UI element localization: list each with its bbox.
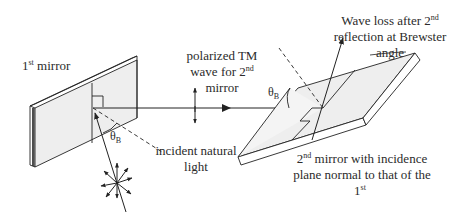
svg-text:reflection at Brewster: reflection at Brewster bbox=[334, 29, 447, 44]
svg-text:polarized TM: polarized TM bbox=[187, 48, 258, 63]
svg-text:wave for 2nd: wave for 2nd bbox=[190, 64, 254, 79]
svg-text:1st: 1st bbox=[354, 183, 367, 198]
brewster-angle-label-2: θB bbox=[268, 85, 279, 101]
svg-text:Wave loss after 2nd: Wave loss after 2nd bbox=[341, 13, 439, 28]
incident-light-label: incident natural light bbox=[155, 143, 237, 174]
wave-loss-label: Wave loss after 2nd reflection at Brewst… bbox=[334, 13, 447, 60]
first-mirror-label: 1st mirror bbox=[22, 58, 71, 73]
svg-text:incident natural: incident natural bbox=[155, 143, 237, 158]
first-mirror-face bbox=[35, 60, 137, 167]
ray-direction-arrow bbox=[222, 104, 231, 112]
svg-text:light: light bbox=[184, 159, 208, 174]
svg-text:mirror: mirror bbox=[205, 80, 239, 95]
polarized-wave-label: polarized TM wave for 2nd mirror bbox=[187, 48, 258, 95]
second-mirror bbox=[238, 53, 420, 165]
unpolarized-light-icon bbox=[101, 163, 132, 198]
brewster-double-reflection-diagram: θB θB 1st mirr bbox=[0, 0, 472, 214]
svg-text:plane normal to that of the: plane normal to that of the bbox=[293, 167, 431, 182]
brewster-angle-label-1: θB bbox=[110, 129, 121, 145]
svg-text:2nd mirror with incidence: 2nd mirror with incidence bbox=[297, 151, 428, 166]
second-mirror-label: 2nd mirror with incidence plane normal t… bbox=[293, 151, 431, 198]
svg-text:angle: angle bbox=[376, 45, 404, 60]
